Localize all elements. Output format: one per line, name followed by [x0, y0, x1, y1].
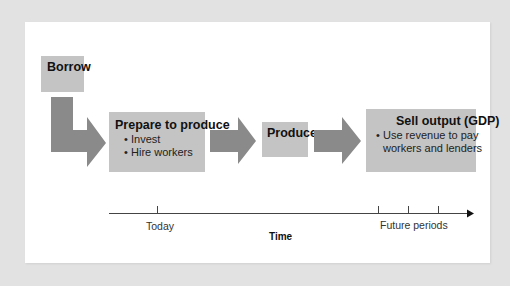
time-axis-label: Time — [269, 231, 292, 242]
future-periods-label: Future periods — [380, 219, 448, 231]
today-label: Today — [146, 220, 174, 232]
